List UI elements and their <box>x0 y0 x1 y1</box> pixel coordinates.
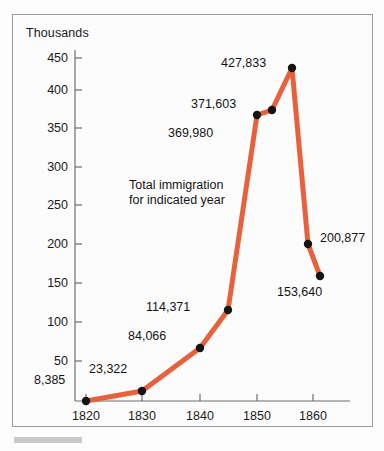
data-point-marker <box>196 344 204 352</box>
y-tick-label-200: 200 <box>26 237 68 251</box>
annotation-line-1: Total immigration <box>129 178 225 193</box>
data-point-marker <box>253 111 261 119</box>
y-axis-ticks <box>75 58 82 361</box>
y-tick-label-250: 250 <box>26 198 68 212</box>
data-point-markers <box>82 64 324 405</box>
data-point-marker <box>224 306 232 314</box>
data-label-1850: 369,980 <box>168 126 213 140</box>
data-point-marker <box>138 387 146 395</box>
data-label-1830: 23,322 <box>89 362 127 376</box>
data-label-1845: 114,371 <box>146 300 190 314</box>
data-point-marker <box>288 64 296 72</box>
data-label-1852: 371,603 <box>191 97 236 111</box>
x-tick-label-1860: 1860 <box>289 409 337 423</box>
y-tick-label-450: 450 <box>26 51 68 65</box>
data-label-1860: 153,640 <box>277 285 322 299</box>
x-tick-label-1840: 1840 <box>176 409 224 423</box>
data-label-1857: 200,877 <box>320 231 365 245</box>
y-tick-label-400: 400 <box>26 83 68 97</box>
y-tick-label-50: 50 <box>26 354 68 368</box>
data-label-1840: 84,066 <box>128 329 166 343</box>
immigration-data-line <box>86 68 320 401</box>
data-point-marker <box>82 397 90 405</box>
x-tick-label-1820: 1820 <box>62 409 110 423</box>
y-axis-unit-label: Thousands <box>26 26 89 40</box>
data-point-marker <box>268 106 276 114</box>
x-tick-label-1830: 1830 <box>118 409 166 423</box>
immigration-line-chart-figure: Thousands 450 400 350 300 250 200 150 10… <box>0 0 384 451</box>
annotation-line-2: for indicated year <box>129 193 225 208</box>
data-point-marker <box>316 272 324 280</box>
footer-gray-bar <box>14 437 82 443</box>
y-tick-label-300: 300 <box>26 160 68 174</box>
data-point-marker <box>304 240 312 248</box>
chart-annotation: Total immigration for indicated year <box>129 178 225 207</box>
y-tick-label-150: 150 <box>26 276 68 290</box>
y-tick-label-100: 100 <box>26 315 68 329</box>
data-label-1820: 8,385 <box>34 373 65 387</box>
y-tick-label-350: 350 <box>26 121 68 135</box>
x-tick-label-1850: 1850 <box>233 409 281 423</box>
data-label-1854: 427,833 <box>221 56 266 70</box>
